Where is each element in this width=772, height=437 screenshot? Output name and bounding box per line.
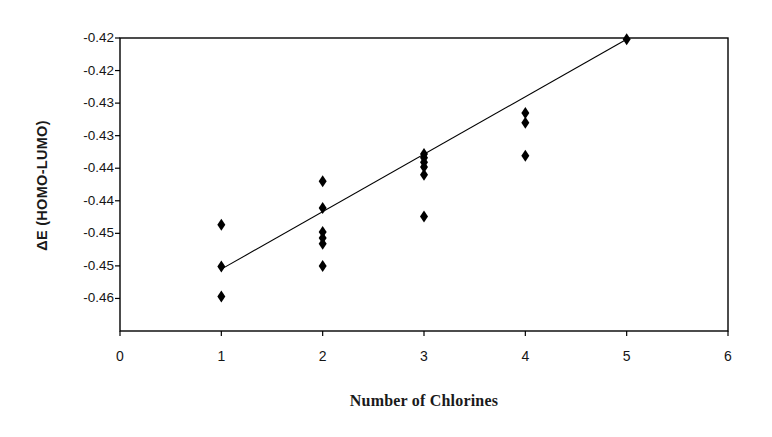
x-tick-label: 6 <box>708 349 748 364</box>
x-tick-label: 3 <box>404 349 444 364</box>
x-tick-label: 2 <box>303 349 343 364</box>
x-tick-label: 1 <box>201 349 241 364</box>
x-tick-label: 4 <box>505 349 545 364</box>
x-tick-label-group: 0123456 <box>0 0 772 437</box>
x-axis-title: Number of Chlorines <box>120 392 728 410</box>
x-tick-label: 5 <box>607 349 647 364</box>
chart-figure: ΔE (HOMO-LUMO) -0.42-0.42-0.43-0.43-0.44… <box>0 0 772 437</box>
x-tick-label: 0 <box>100 349 140 364</box>
